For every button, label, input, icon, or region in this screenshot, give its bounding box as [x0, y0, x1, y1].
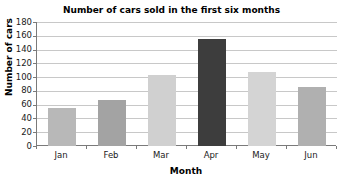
x-tick-mark — [86, 146, 87, 149]
y-tick-label: 120 — [2, 59, 32, 68]
bar-feb — [98, 100, 126, 146]
x-axis-tick-labels: JanFebMarAprMayJun — [36, 150, 336, 162]
x-tick-label-jun: Jun — [286, 150, 336, 160]
y-axis-tick-labels: 020406080100120140160180 — [0, 22, 32, 146]
top-edge-artifact — [0, 0, 343, 3]
bar-jun — [298, 87, 326, 146]
y-tick-label: 40 — [2, 114, 32, 123]
x-tick-mark — [236, 146, 237, 149]
bar-apr — [198, 39, 226, 146]
x-tick-label-apr: Apr — [186, 150, 236, 160]
x-tick-mark — [136, 146, 137, 149]
x-axis-title: Month — [36, 166, 336, 176]
x-tick-label-feb: Feb — [86, 150, 136, 160]
y-tick-label: 180 — [2, 18, 32, 27]
y-tick-label: 0 — [2, 142, 32, 151]
bar-may — [248, 72, 276, 146]
y-tick-label: 100 — [2, 73, 32, 82]
x-tick-mark — [186, 146, 187, 149]
x-tick-label-jan: Jan — [36, 150, 86, 160]
bar-mar — [148, 75, 176, 146]
x-tick-mark — [336, 146, 337, 149]
x-tick-mark — [36, 146, 37, 149]
x-tick-mark — [286, 146, 287, 149]
x-tick-label-mar: Mar — [136, 150, 186, 160]
bar-jan — [48, 108, 76, 146]
y-tick-label: 60 — [2, 100, 32, 109]
y-tick-label: 140 — [2, 45, 32, 54]
chart-title: Number of cars sold in the first six mon… — [0, 5, 343, 16]
x-tick-label-may: May — [236, 150, 286, 160]
bar-chart: Number of cars sold in the first six mon… — [0, 0, 343, 182]
y-tick-label: 20 — [2, 128, 32, 137]
y-tick-label: 80 — [2, 86, 32, 95]
bars-group — [37, 22, 337, 146]
plot-area — [36, 22, 336, 146]
y-tick-label: 160 — [2, 31, 32, 40]
